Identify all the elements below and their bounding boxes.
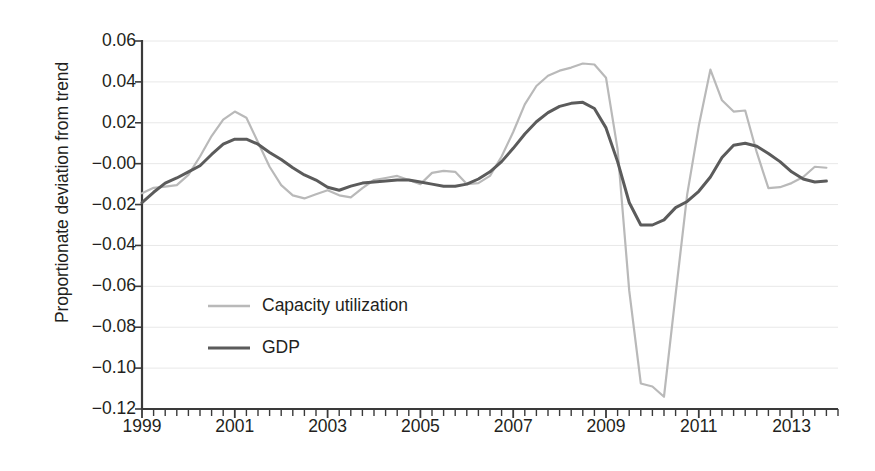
chart-figure: Proportionate deviation from trend 0.060… bbox=[0, 0, 875, 471]
x-axis-minor-ticks bbox=[142, 409, 838, 418]
legend-label-gdp: GDP bbox=[262, 339, 300, 357]
legend-label-capacity-utilization: Capacity utilization bbox=[262, 297, 408, 315]
gridlines bbox=[142, 41, 838, 409]
plot-canvas bbox=[0, 0, 875, 471]
